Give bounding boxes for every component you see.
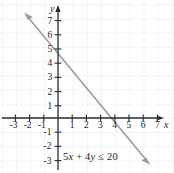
y-tick-label--2: -2 (44, 142, 52, 152)
coordinate-graph-figure: -3 -2 -1 1 2 3 4 5 6 7 7 6 5 4 3 2 1 -1 … (0, 0, 174, 173)
y-tick-label-1: 1 (48, 102, 53, 112)
y-tick-label-7: 7 (48, 17, 53, 27)
y-tick-label-4: 4 (48, 59, 53, 69)
x-tick-label-6: 6 (141, 121, 146, 131)
tick-labels-layer: -3 -2 -1 1 2 3 4 5 6 7 7 6 5 4 3 2 1 -1 … (0, 0, 174, 173)
equation-relation-sign: ≤ (98, 151, 104, 162)
x-tick-label-7: 7 (155, 121, 160, 131)
equation-plus-sign: + (76, 151, 82, 162)
inequality-annotation: 5x + 4y ≤ 20 (63, 151, 118, 162)
y-tick-label-2: 2 (48, 88, 53, 98)
x-tick-label-5: 5 (127, 121, 132, 131)
equation-rhs: 20 (107, 151, 118, 162)
x-tick-label--3: -3 (10, 121, 18, 131)
y-tick-label--3: -3 (44, 157, 52, 167)
x-tick-label-2: 2 (84, 121, 89, 131)
equation-var-x: x (68, 151, 73, 162)
y-tick-label-6: 6 (48, 31, 53, 41)
y-axis-label: y (50, 4, 54, 14)
y-tick-label-5: 5 (48, 45, 53, 55)
x-tick-label--2: -2 (24, 121, 32, 131)
x-tick-label-3: 3 (98, 121, 103, 131)
x-tick-label-4: 4 (112, 121, 117, 131)
y-tick-label-3: 3 (48, 73, 53, 83)
x-tick-label-1: 1 (70, 121, 75, 131)
y-tick-label--1: -1 (44, 128, 52, 138)
equation-var-y: y (91, 151, 96, 162)
x-axis-label: x (164, 120, 168, 130)
